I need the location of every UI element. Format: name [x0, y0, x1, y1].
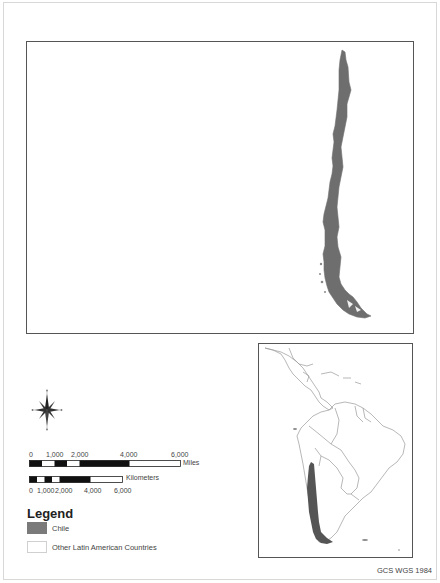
scale-bar-km-graphic — [29, 476, 123, 483]
scale-bar-miles-graphic — [29, 460, 181, 467]
north-arrow — [31, 389, 63, 431]
legend-swatch-chile — [27, 522, 47, 534]
scale-tick: 6,000 — [114, 487, 132, 494]
legend-label-other-countries: Other Latin American Countries — [52, 543, 157, 552]
coordinate-system-label: GCS WGS 1984 — [377, 566, 432, 575]
scale-tick: 6,000 — [171, 451, 189, 458]
scale-tick: 2,000 — [55, 487, 73, 494]
scale-tick: 1,000 — [37, 487, 55, 494]
legend-label-chile: Chile — [52, 524, 69, 533]
main-map-frame — [26, 41, 414, 334]
scale-unit-label: Kilometers — [126, 474, 159, 481]
scale-tick: 0 — [29, 487, 33, 494]
scale-unit-label: Miles — [183, 459, 199, 466]
scale-tick: 4,000 — [120, 451, 138, 458]
scale-tick: 4,000 — [84, 487, 102, 494]
inset-map-frame — [258, 343, 413, 558]
legend-title: Legend — [27, 506, 73, 521]
compass-rose-icon — [31, 389, 63, 431]
scale-tick: 0 — [29, 451, 33, 458]
chile-main-map — [27, 42, 412, 332]
scale-tick: 1,000 — [46, 451, 64, 458]
legend-swatch-other-countries — [27, 541, 47, 553]
latin-america-inset-map — [259, 344, 411, 556]
scale-tick: 2,000 — [71, 451, 89, 458]
